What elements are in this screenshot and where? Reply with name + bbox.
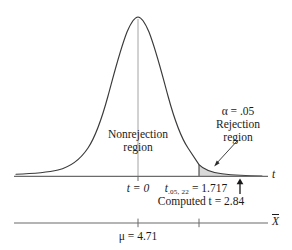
rejection-region-label-line1: Rejection (216, 118, 260, 131)
t-zero-label: t = 0 (127, 182, 149, 195)
alpha-value-label: α = .05 (216, 105, 260, 118)
mu-label: μ = 4.71 (119, 230, 158, 243)
xbar-axis-label-text: X (272, 215, 279, 228)
computed-statistic-label: Computed t = 2.84 (158, 195, 244, 208)
computed-t-arrowhead (237, 178, 244, 184)
rejection-region-label: α = .05 Rejection region (216, 105, 260, 144)
rejection-region-label-line2: region (216, 131, 260, 144)
nonrejection-region-label-line1: Nonrejection (108, 128, 168, 141)
critical-value-number: = 1.717 (192, 182, 227, 194)
nonrejection-region-label: Nonrejection region (108, 128, 168, 154)
t-distribution-figure: Nonrejection region α = .05 Rejection re… (0, 0, 292, 250)
xbar-axis-label: X (272, 215, 279, 228)
t-axis-label: t (272, 168, 275, 181)
nonrejection-region-label-line2: region (108, 141, 168, 154)
